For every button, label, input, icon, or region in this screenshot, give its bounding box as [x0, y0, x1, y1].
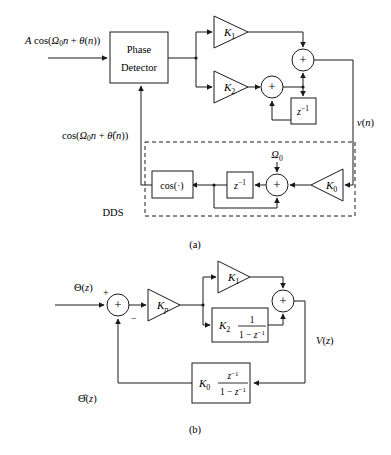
b-branch-node [201, 303, 204, 306]
block-diagram-svg: A cos(Ω0n + θ(n)) Phase Detector K1 K2 K… [0, 0, 391, 455]
summer-dds-symbol: + [273, 177, 280, 192]
summer-output-symbol: + [299, 52, 306, 67]
b-plus-sign: + [103, 287, 109, 298]
phase-detector-label-line2: Detector [121, 62, 158, 73]
b-minus-sign: − [131, 313, 137, 324]
branch-node [194, 56, 197, 59]
b-summer-error-symbol: + [114, 297, 121, 312]
b-input-label: Θ(z) [74, 282, 93, 294]
caption-b: (b) [189, 424, 202, 436]
cos-block-label: cos(·) [160, 180, 183, 192]
b-k2-numerator: 1 [250, 315, 255, 325]
b-summer-output-symbol: + [279, 293, 286, 308]
dds-label: DDS [102, 207, 123, 218]
output-vn-label: v(n) [357, 117, 374, 129]
b-output-label: V(z) [316, 335, 334, 347]
caption-a: (a) [189, 239, 201, 251]
figure-container: A cos(Ω0n + θ(n)) Phase Detector K1 K2 K… [0, 0, 391, 455]
phase-detector-label-line1: Phase [127, 44, 152, 55]
b-feedback-label: Θ̂(z) [78, 393, 97, 405]
summer-integrator-symbol: + [268, 79, 275, 94]
phase-detector-block [110, 32, 168, 83]
